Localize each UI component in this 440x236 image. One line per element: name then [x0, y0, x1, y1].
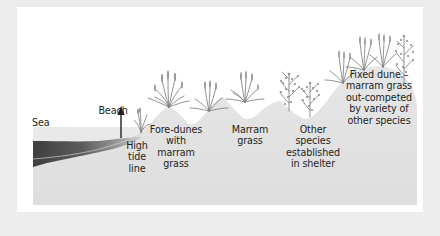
label-other-species: Other species established in shelter	[276, 124, 350, 170]
figure-panel: Sea Beach High tide line Fore-dunes with…	[17, 7, 423, 212]
flowering-plant-other-2	[301, 82, 320, 117]
label-marram-grass: Marram grass	[222, 124, 278, 147]
tall-marram-fixed-2	[346, 36, 377, 70]
label-fore-dunes: Fore-dunes with marram grass	[145, 124, 207, 170]
marram-tuft-foredune-2	[190, 80, 228, 111]
dune-succession-diagram: Sea Beach High tide line Fore-dunes with…	[17, 7, 423, 212]
label-fixed-dune: Fixed dune – marram grass out-competed b…	[337, 69, 421, 126]
label-sea: Sea	[32, 117, 72, 128]
tall-marram-fixed-3	[370, 33, 396, 67]
flowering-plant-other-1	[280, 72, 300, 111]
marram-tuft-marram-dune	[226, 71, 264, 102]
label-beach: Beach	[89, 105, 137, 116]
marram-tuft-foredune-1	[148, 71, 189, 107]
